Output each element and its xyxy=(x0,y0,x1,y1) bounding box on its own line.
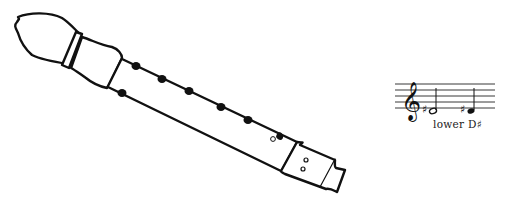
recorder-foot xyxy=(281,142,345,192)
thumb-hole-closed-icon xyxy=(118,89,127,97)
sharp-icon: ♯ xyxy=(460,103,465,116)
sharp-icon: ♯ xyxy=(422,103,427,116)
hole-5-closed-icon xyxy=(244,116,253,124)
finger-holes xyxy=(118,62,284,141)
body-bottom-edge xyxy=(108,87,281,171)
recorder-fingering-diagram: 𝄞 ♯ ♯ xyxy=(0,0,513,203)
body-top-edge xyxy=(122,59,297,142)
hole-4-closed-icon xyxy=(217,103,226,111)
hole-2-closed-icon xyxy=(158,75,167,83)
hole-3-closed-icon xyxy=(185,87,194,95)
note-label: lower D♯ xyxy=(433,118,482,130)
treble-clef-icon: 𝄞 xyxy=(401,80,421,122)
recorder-upper-body xyxy=(71,37,122,88)
recorder-illustration xyxy=(15,13,345,192)
hole-1-closed-icon xyxy=(132,62,141,70)
